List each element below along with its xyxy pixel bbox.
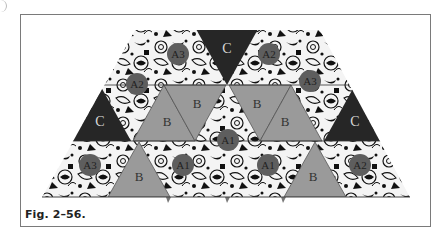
svg-text:A3: A3 [303, 75, 317, 87]
label-a2-upper-left: A2 [126, 73, 148, 95]
svg-text:A1: A1 [176, 159, 189, 171]
seam-notch [166, 197, 171, 203]
figure-caption: Fig. 2–56. [25, 208, 86, 221]
label-a3-upper-right: A3 [299, 70, 321, 92]
label-a1-lower-right: A1 [257, 154, 279, 176]
label-b-row2-4: B [281, 114, 290, 129]
svg-text:A1: A1 [221, 134, 234, 146]
label-c-right: C [350, 114, 359, 129]
svg-text:A2: A2 [353, 159, 366, 171]
svg-text:A2: A2 [130, 78, 143, 90]
label-a1-lower-left: A1 [172, 154, 194, 176]
label-b-row3-left: B [135, 169, 144, 184]
label-a1-center: A1 [217, 129, 239, 151]
label-a2-lower-right: A2 [349, 154, 371, 176]
label-c-top: C [222, 41, 231, 56]
svg-text:A3: A3 [83, 159, 97, 171]
svg-text:A3: A3 [171, 48, 185, 60]
label-b-row3-right: B [309, 169, 318, 184]
svg-text:A2: A2 [262, 48, 275, 60]
label-b-row2-2: B [193, 96, 202, 111]
svg-text:A1: A1 [261, 159, 274, 171]
seam-notch [225, 197, 230, 203]
label-a2-top-right: A2 [258, 43, 280, 65]
label-a3-top-left: A3 [167, 43, 189, 65]
label-b-row2-3: B [253, 96, 262, 111]
label-c-left: C [95, 114, 104, 129]
seam-notch [281, 197, 286, 203]
label-b-row2-1: B [163, 114, 172, 129]
quilt-diagram: A3 A2 A2 A3 A1 A3 A1 A1 A2 C C C B B B B… [0, 0, 448, 240]
label-a3-lower-left: A3 [79, 154, 101, 176]
